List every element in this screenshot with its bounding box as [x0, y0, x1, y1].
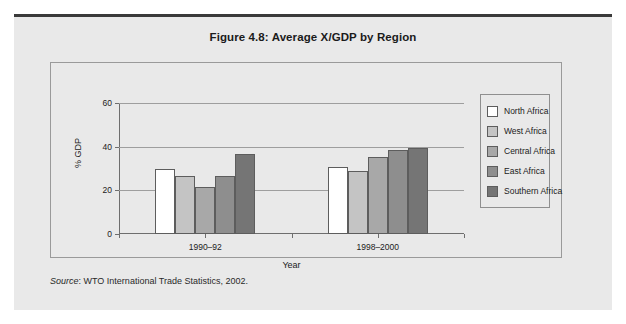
legend-item: Central Africa	[487, 141, 544, 161]
legend-label: Central Africa	[504, 146, 555, 156]
bar	[368, 157, 388, 235]
legend-label: North Africa	[504, 106, 548, 116]
bar	[348, 171, 368, 234]
bar	[388, 150, 408, 234]
y-tick-label: 40	[103, 142, 112, 152]
top-rule-divider	[14, 14, 612, 17]
legend-label: West Africa	[504, 126, 547, 136]
figure-title: Figure 4.8: Average X/GDP by Region	[14, 31, 612, 43]
y-tick-label: 0	[107, 229, 112, 239]
chart-legend: North AfricaWest AfricaCentral AfricaEas…	[480, 94, 550, 208]
bar	[215, 176, 235, 234]
x-axis-title: Year	[119, 260, 464, 270]
legend-item: West Africa	[487, 121, 544, 141]
plot-area: 0204060 1990–921998–2000 Year	[119, 103, 464, 234]
bar	[235, 154, 255, 234]
bar	[328, 167, 348, 234]
bar	[408, 148, 428, 234]
x-tick-mark	[464, 234, 465, 238]
bar	[195, 187, 215, 234]
legend-item: North Africa	[487, 101, 544, 121]
y-axis-title: % GDP	[73, 138, 83, 168]
legend-swatch-icon	[487, 166, 498, 177]
legend-item: East Africa	[487, 161, 544, 181]
legend-item: Southern Africa	[487, 181, 544, 201]
legend-swatch-icon	[487, 106, 498, 117]
x-tick-mark	[205, 234, 206, 238]
legend-swatch-icon	[487, 126, 498, 137]
y-tick-mark	[115, 190, 119, 191]
y-tick-mark	[115, 147, 119, 148]
x-category-label: 1990–92	[155, 242, 255, 252]
y-tick-mark	[115, 103, 119, 104]
legend-swatch-icon	[487, 146, 498, 157]
source-label: Source	[50, 276, 79, 286]
legend-label: East Africa	[504, 166, 545, 176]
y-tick-label: 60	[103, 98, 112, 108]
x-tick-mark	[378, 234, 379, 238]
gridline	[119, 103, 464, 104]
source-text: : WTO International Trade Statistics, 20…	[79, 276, 248, 286]
legend-label: Southern Africa	[504, 186, 562, 196]
legend-swatch-icon	[487, 186, 498, 197]
bar	[175, 176, 195, 234]
source-note: Source: WTO International Trade Statisti…	[50, 276, 248, 286]
bar	[155, 169, 175, 235]
x-tick-mark	[119, 234, 120, 238]
x-category-label: 1998–2000	[328, 242, 428, 252]
figure-panel: Figure 4.8: Average X/GDP by Region % GD…	[14, 14, 612, 310]
x-tick-mark	[292, 234, 293, 238]
figure-page: Figure 4.8: Average X/GDP by Region % GD…	[0, 0, 626, 324]
chart-frame: % GDP 0204060 1990–921998–2000 Year Nort…	[50, 62, 562, 258]
y-tick-label: 20	[103, 185, 112, 195]
